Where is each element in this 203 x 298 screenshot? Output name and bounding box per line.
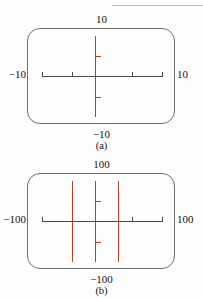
x-tick-minus5-a bbox=[72, 72, 73, 77]
x-tick-plus5-a bbox=[132, 72, 133, 77]
calculator-screen-a bbox=[27, 28, 175, 124]
vertical-line-center-b bbox=[95, 181, 96, 262]
figure-b-label-bottom: −100 bbox=[0, 273, 203, 285]
calculator-screen-b bbox=[27, 173, 175, 269]
page-rule bbox=[112, 5, 203, 6]
vertical-line-right-b bbox=[118, 181, 119, 262]
figure-a: 10 −10 10 −10 (a) bbox=[0, 14, 203, 150]
figure-a-label-right: 10 bbox=[177, 68, 203, 80]
x-axis-b bbox=[42, 221, 162, 222]
x-tick-minus100-b bbox=[42, 217, 43, 222]
figure-a-label-top: 10 bbox=[0, 13, 203, 25]
figure-b-label-top: 100 bbox=[0, 158, 203, 170]
x-tick-minus10-a bbox=[42, 72, 43, 77]
figure-a-caption: (a) bbox=[0, 140, 203, 151]
figure-a-label-bottom: −10 bbox=[0, 128, 203, 140]
figure-a-label-left: −10 bbox=[0, 68, 26, 80]
y-tick-plus5-a bbox=[96, 56, 101, 57]
y-tick-minus5-a bbox=[96, 97, 101, 98]
x-axis-a bbox=[42, 76, 162, 77]
x-tick-plus50-b bbox=[132, 217, 133, 222]
figure-b-label-right: 100 bbox=[177, 213, 203, 225]
figure-b-label-left: −100 bbox=[0, 213, 26, 225]
figure-b-caption: (b) bbox=[0, 285, 203, 296]
vertical-line-left-b bbox=[72, 181, 73, 262]
x-tick-plus10-a bbox=[162, 72, 163, 77]
figure-b: 100 −100 100 −100 (b) bbox=[0, 156, 203, 298]
y-tick-minus50-b bbox=[96, 242, 101, 243]
vertical-line-x0-a bbox=[95, 36, 96, 117]
x-tick-plus100-b bbox=[162, 217, 163, 222]
y-tick-plus50-b bbox=[96, 201, 101, 202]
